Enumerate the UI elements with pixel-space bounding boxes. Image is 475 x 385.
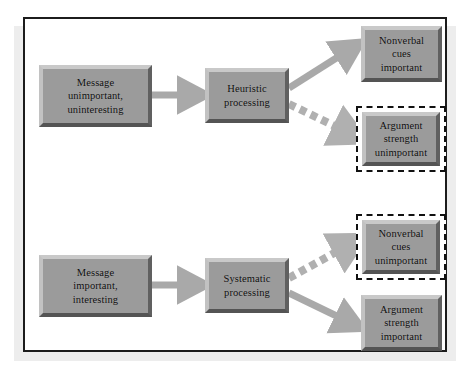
node-heuristic-processing[interactable]: Heuristic processing [205,68,289,123]
node-label: Nonverbal cues unimportant [372,227,430,266]
connector-top-process-to-cues [289,50,349,88]
diagram-canvas: Message unimportant, uninteresting Heuri… [0,0,475,385]
node-nonverbal-cues-important[interactable]: Nonverbal cues important [361,26,442,82]
node-nonverbal-cues-unimportant-outline: Nonverbal cues unimportant [356,214,446,280]
connector-bottom-process-to-cues [289,245,349,278]
node-label: Systematic processing [220,272,273,298]
node-argument-strength-important[interactable]: Argument strength important [361,295,442,351]
connector-bottom-process-to-argument [289,293,349,322]
node-label: Heuristic processing [221,82,273,108]
node-label: Message important, interesting [70,266,121,305]
node-argument-strength-unimportant-outline: Argument strength unimportant [356,106,446,172]
node-nonverbal-cues-unimportant[interactable]: Nonverbal cues unimportant [362,220,440,274]
node-argument-strength-unimportant[interactable]: Argument strength unimportant [362,112,440,166]
node-label: Argument strength important [377,303,426,342]
node-systematic-processing[interactable]: Systematic processing [205,258,289,313]
connector-top-process-to-argument [289,104,349,133]
node-message-unimportant[interactable]: Message unimportant, uninteresting [39,65,152,127]
diagram-stage: Message unimportant, uninteresting Heuri… [0,0,475,385]
node-label: Nonverbal cues important [376,34,427,73]
node-message-important[interactable]: Message important, interesting [39,255,152,317]
node-label: Argument strength unimportant [372,119,430,158]
node-label: Message unimportant, uninteresting [64,76,126,115]
